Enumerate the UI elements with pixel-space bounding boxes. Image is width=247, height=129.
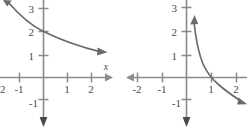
y-axis-down-arrow-icon bbox=[183, 117, 191, 127]
left-ytick-label-neg1: -1 bbox=[29, 97, 38, 109]
left-x-axis-label: x bbox=[103, 61, 109, 72]
left-xtick-label-neg1: -1 bbox=[14, 83, 23, 95]
x-axis-left-arrow-icon bbox=[126, 74, 134, 82]
right-ytick-label-neg1: -1 bbox=[172, 97, 181, 109]
right-xtick-label-1: 1 bbox=[208, 83, 214, 95]
right-graph-svg: -2 -1 1 2 3 2 1 -1 bbox=[124, 0, 247, 129]
left-graph-svg: 2 -1 1 2 3 2 1 -1 x bbox=[0, 0, 124, 129]
x-axis-right-arrow-icon bbox=[105, 74, 113, 82]
left-y-axis bbox=[40, 0, 48, 127]
left-xtick-label-1: 1 bbox=[64, 83, 70, 95]
right-ytick-label-1: 1 bbox=[172, 50, 178, 62]
left-ytick-label-2: 2 bbox=[29, 26, 35, 38]
two-graph-figure: 2 -1 1 2 3 2 1 -1 x bbox=[0, 0, 247, 129]
y-axis-down-arrow-icon bbox=[40, 117, 48, 127]
right-ytick-label-2: 2 bbox=[172, 26, 178, 38]
left-x-axis bbox=[0, 74, 113, 82]
right-y-axis bbox=[183, 0, 191, 127]
curve-start-arrow-icon bbox=[190, 15, 198, 25]
curve-end-arrow-icon bbox=[97, 48, 108, 56]
right-coordinate-plane: -2 -1 1 2 3 2 1 -1 bbox=[124, 0, 247, 129]
curve-end-arrow-icon bbox=[237, 97, 247, 104]
right-xtick-label-2: 2 bbox=[233, 83, 239, 95]
right-xtick-label-neg1: -1 bbox=[157, 83, 166, 95]
right-ytick-label-3: 3 bbox=[172, 2, 178, 14]
left-xtick-label-neg2: 2 bbox=[0, 83, 6, 95]
left-ytick-label-1: 1 bbox=[29, 50, 35, 62]
left-ytick-label-3: 3 bbox=[29, 3, 35, 15]
left-coordinate-plane: 2 -1 1 2 3 2 1 -1 x bbox=[0, 0, 124, 129]
left-exponential-curve bbox=[3, 0, 108, 55]
right-xtick-label-neg2: -2 bbox=[132, 83, 141, 95]
left-xtick-label-2: 2 bbox=[88, 83, 94, 95]
